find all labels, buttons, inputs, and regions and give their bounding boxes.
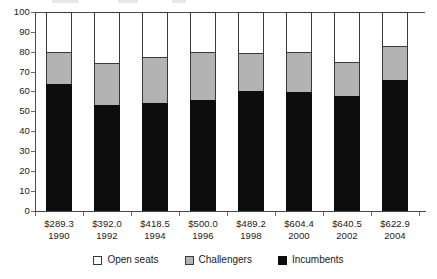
x-axis-label-amount: $622.9 [371,218,419,230]
x-axis-label-year: 2002 [323,230,371,242]
x-axis-tick [131,212,132,216]
x-axis-label-amount: $500.0 [179,218,227,230]
legend-swatch-icon [185,256,194,265]
x-axis-tick [275,212,276,216]
x-axis-ticks [35,212,426,216]
table-row [382,12,408,211]
x-axis-label: $289.3 1990 [35,218,83,242]
y-axis-tick-label: 90 [0,27,30,37]
bar-segment-open-seats [190,12,216,52]
bar-segment-open-seats [142,12,168,57]
y-axis-tick-label: 30 [0,146,30,156]
table-row [142,12,168,211]
legend-item-challengers: Challengers [185,254,252,266]
legend: Open seats Challengers Incumbents [0,254,437,266]
bar-segment-challengers [46,52,72,84]
x-axis-tick [323,212,324,216]
x-axis-tick [83,212,84,216]
bar-segment-open-seats [238,12,264,53]
bar-segment-challengers [286,52,312,92]
y-axis-tick-label: 70 [0,67,30,77]
y-axis-tick-label: 60 [0,86,30,96]
x-axis-label-amount: $289.3 [35,218,83,230]
y-axis-tick-label: 40 [0,126,30,136]
x-axis-label: $604.4 2000 [275,218,323,242]
bar-segment-incumbents [238,91,264,211]
table-row [286,12,312,211]
bar-segment-open-seats [286,12,312,52]
table-row [190,12,216,211]
bar-segment-incumbents [382,80,408,211]
legend-item-open-seats: Open seats [93,254,158,266]
x-axis-label-year: 1996 [179,230,227,242]
x-axis-label: $392.0 1992 [83,218,131,242]
x-axis-label: $489.2 1998 [227,218,275,242]
bars-layer [35,12,426,211]
y-axis-tick-label: 80 [0,47,30,57]
bar-segment-challengers [190,52,216,100]
bar-segment-challengers [238,53,264,91]
legend-label: Challengers [199,254,252,266]
bar-segment-incumbents [286,92,312,211]
bar-segment-challengers [334,62,360,96]
bar-segment-open-seats [94,12,120,63]
bar-segment-challengers [142,57,168,103]
bar-segment-challengers [94,63,120,105]
bar-segment-incumbents [190,100,216,211]
x-axis-label-amount: $489.2 [227,218,275,230]
x-axis-tick [371,212,372,216]
table-row [94,12,120,211]
legend-item-incumbents: Incumbents [278,254,344,266]
legend-swatch-icon [278,256,287,265]
x-axis-label: $640.5 2002 [323,218,371,242]
bar-segment-incumbents [94,105,120,211]
bar-segment-incumbents [334,96,360,211]
x-axis-tick [35,212,36,216]
bar-segment-open-seats [46,12,72,52]
x-axis-label: $418.5 1994 [131,218,179,242]
x-axis-tick [419,212,420,216]
legend-label: Open seats [107,254,158,266]
bar-segment-incumbents [142,103,168,211]
x-axis-label-year: 1990 [35,230,83,242]
legend-swatch-icon [93,256,102,265]
x-axis-label-year: 2004 [371,230,419,242]
x-axis-label-amount: $418.5 [131,218,179,230]
table-row [46,12,72,211]
bar-segment-open-seats [382,12,408,46]
y-axis-tick-label: 50 [0,106,30,116]
table-row [334,12,360,211]
x-axis-label-amount: $604.4 [275,218,323,230]
bar-segment-challengers [382,46,408,80]
x-axis-label-amount: $392.0 [83,218,131,230]
scan-artifact [52,0,78,3]
bar-segment-open-seats [334,12,360,62]
y-axis-tick-label: 100 [0,7,30,17]
y-axis-tick-label: 20 [0,166,30,176]
x-axis-label-year: 1994 [131,230,179,242]
legend-label: Incumbents [292,254,344,266]
y-axis-tick-label: 10 [0,186,30,196]
x-axis-label-amount: $640.5 [323,218,371,230]
stacked-bar-chart: 100 90 80 70 60 50 40 30 20 10 0 [0,0,437,279]
x-axis-label-year: 1998 [227,230,275,242]
x-axis-tick [227,212,228,216]
y-axis: 100 90 80 70 60 50 40 30 20 10 0 [0,0,30,223]
x-axis-label: $622.9 2004 [371,218,419,242]
scan-artifact [118,0,138,3]
x-axis-label: $500.0 1996 [179,218,227,242]
y-axis-tick-label: 0 [0,206,30,216]
scan-artifact [172,0,186,3]
x-axis-label-year: 2000 [275,230,323,242]
x-axis-label-year: 1992 [83,230,131,242]
table-row [238,12,264,211]
x-axis: $289.3 1990 $392.0 1992 $418.5 1994 $500… [35,218,426,246]
x-axis-tick [179,212,180,216]
bar-segment-incumbents [46,84,72,211]
